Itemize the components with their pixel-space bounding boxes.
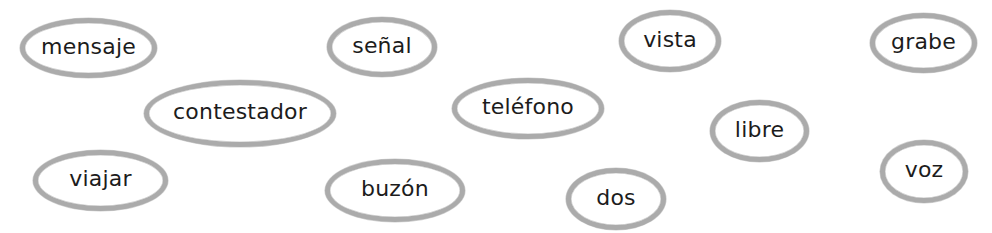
word-oval-libre[interactable]: libre (710, 100, 809, 162)
word-label: libre (735, 119, 784, 144)
word-label: mensaje (41, 36, 136, 61)
word-oval-senal[interactable]: señal (327, 17, 437, 77)
word-label: grabe (891, 31, 956, 56)
word-oval-buzon[interactable]: buzón (325, 159, 465, 222)
word-bank: mensaje señal vista grabe contestador te… (0, 0, 992, 233)
word-oval-voz[interactable]: voz (880, 140, 968, 203)
word-oval-grabe[interactable]: grabe (870, 13, 977, 73)
word-label: vista (643, 29, 697, 54)
word-oval-contestador[interactable]: contestador (144, 80, 336, 147)
word-label: dos (596, 187, 636, 212)
word-oval-mensaje[interactable]: mensaje (20, 18, 157, 78)
word-label: contestador (173, 101, 307, 126)
word-oval-dos[interactable]: dos (566, 168, 666, 230)
word-label: señal (352, 35, 412, 60)
word-oval-viajar[interactable]: viajar (33, 150, 168, 211)
word-label: voz (905, 159, 944, 184)
word-label: viajar (69, 168, 131, 193)
word-oval-vista[interactable]: vista (619, 10, 721, 72)
word-oval-telefono[interactable]: teléfono (452, 78, 604, 139)
word-label: teléfono (482, 96, 574, 121)
word-label: buzón (361, 178, 429, 203)
